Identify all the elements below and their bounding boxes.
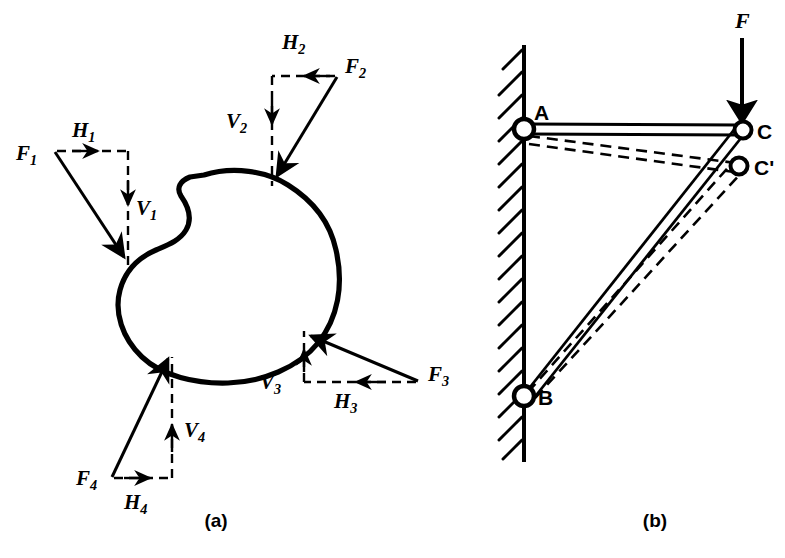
figure-container: F1 H1 V1 F2 H2 V2 (0, 0, 785, 558)
joint-C-label: C (757, 120, 772, 143)
caption-b: (b) (643, 510, 667, 531)
joint-A-pin (514, 119, 534, 139)
caption-a: (a) (204, 510, 227, 531)
member-AC-edge-top (528, 124, 740, 125)
applied-force-label: F (734, 8, 750, 33)
joint-B-pin (514, 386, 534, 406)
joint-Cp-label: C' (754, 156, 774, 179)
figure-svg: F1 H1 V1 F2 H2 V2 (0, 0, 785, 558)
joint-Cp-pin (731, 158, 748, 175)
page-background (0, 0, 785, 558)
joint-B-label: B (538, 386, 553, 409)
joint-A-label: A (534, 101, 549, 124)
member-AC-edge-bottom (528, 134, 740, 135)
joint-C-pin (735, 122, 752, 139)
